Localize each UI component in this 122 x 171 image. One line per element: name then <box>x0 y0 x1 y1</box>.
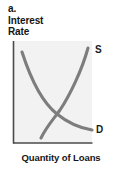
demand-curve-label: D <box>96 125 103 135</box>
supply-curve-label: S <box>95 45 102 55</box>
supply-curve <box>41 48 88 138</box>
plot-area <box>0 0 122 171</box>
supply-demand-figure: a. Interest Rate S D Quantity of Loans <box>0 0 122 171</box>
x-axis-caption: Quantity of Loans <box>0 152 122 163</box>
